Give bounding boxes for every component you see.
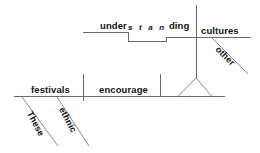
word-understanding-part-a: under: [100, 21, 127, 31]
understanding-stepped-line: [83, 33, 166, 42]
word-understanding-part-b: s t a n: [127, 24, 168, 32]
sentence-diagram: unders t a nding cultures other festival…: [0, 0, 260, 153]
word-understanding-part-c: ding: [168, 21, 189, 31]
word-festivals: festivals: [31, 85, 70, 95]
triangle-pedestal: [178, 78, 212, 97]
word-understanding: unders t a nding: [100, 21, 189, 31]
word-cultures: cultures: [201, 26, 239, 36]
word-encourage: encourage: [99, 85, 148, 95]
